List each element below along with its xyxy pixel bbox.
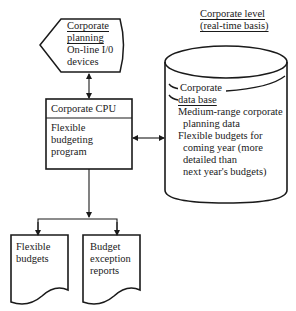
document-flexible-budgets-line1: Flexible xyxy=(16,241,50,253)
database-node: data base Medium-range corporate plannin… xyxy=(178,94,283,178)
database-item2-line4: next year's budgets) xyxy=(178,166,283,178)
planning-display-node: Corporate planning On-line I/0 devices xyxy=(67,20,113,68)
corporate-level-line1: Corporate level xyxy=(200,8,269,20)
planning-display-title1: Corporate xyxy=(67,20,113,32)
database-item2-line3: detailed than xyxy=(178,154,283,166)
cpu-body-line1: Flexible xyxy=(51,122,93,134)
database-title1: Corporate xyxy=(178,82,224,94)
database-inner-curve-2 xyxy=(169,95,178,100)
corporate-level-line2: (real-time basis) xyxy=(200,20,269,32)
planning-display-line3: On-line I/0 xyxy=(67,44,113,56)
document-exception-reports: Budget exception reports xyxy=(90,241,131,277)
cpu-title: Corporate CPU xyxy=(51,103,116,115)
document-exception-reports-line2: exception xyxy=(90,253,131,265)
document-flexible-budgets-line2: budgets xyxy=(16,253,50,265)
database-item1-line2: planning data xyxy=(178,118,283,130)
document-exception-reports-line1: Budget xyxy=(90,241,131,253)
cpu-body-line3: program xyxy=(51,146,93,158)
database-item1-line1: Medium-range corporate xyxy=(178,106,283,118)
database-item2-line1: Flexible budgets for xyxy=(178,130,283,142)
output-branch-line xyxy=(38,219,117,234)
database-item2-line2: coming year (more xyxy=(178,142,283,154)
document-flexible-budgets: Flexible budgets xyxy=(16,241,50,265)
document-exception-reports-line3: reports xyxy=(90,265,131,277)
planning-display-title2: planning xyxy=(67,32,113,44)
database-title2: data base xyxy=(178,94,283,106)
planning-display-line4: devices xyxy=(67,56,113,68)
corporate-level-heading: Corporate level (real-time basis) xyxy=(200,8,269,32)
cpu-body: Flexible budgeting program xyxy=(51,122,93,158)
cpu-body-line2: budgeting xyxy=(51,134,93,146)
